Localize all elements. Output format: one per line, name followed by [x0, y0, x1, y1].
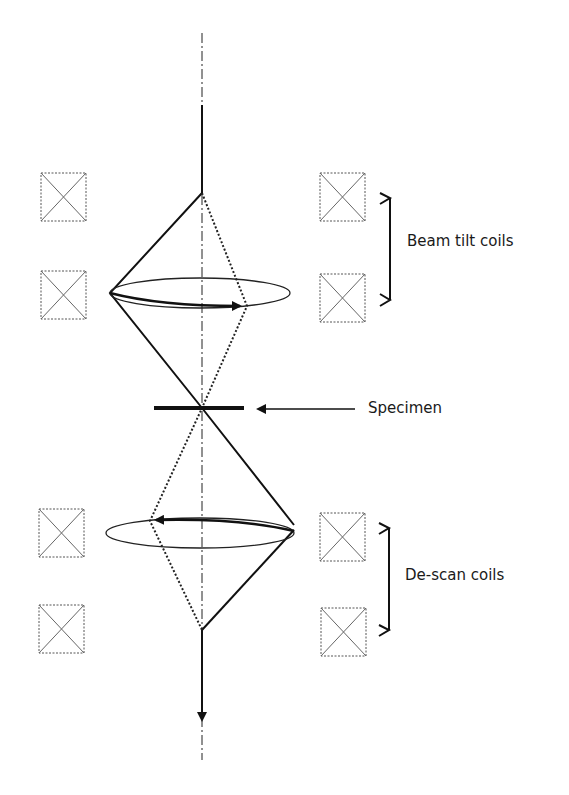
coil-right-4 — [321, 608, 366, 656]
beam-tilt-bracket — [380, 193, 390, 306]
specimen-label: Specimen — [368, 399, 442, 417]
lower-rotation-ellipse — [106, 518, 294, 548]
coil-left-1 — [41, 173, 86, 221]
descan-bracket — [379, 523, 389, 636]
descan-coils-label: De-scan coils — [405, 566, 504, 584]
coil-right-3 — [320, 513, 365, 561]
coil-left-2 — [41, 271, 86, 319]
lower-rotation-arrow — [156, 520, 294, 531]
tilted-beam-dotted — [150, 193, 247, 630]
upper-rotation-arrow — [110, 293, 240, 306]
descanned-beam-solid — [202, 530, 294, 630]
beam-tilt-coils-label: Beam tilt coils — [407, 232, 514, 250]
coil-right-1 — [320, 173, 365, 221]
upper-rotation-ellipse — [110, 278, 290, 308]
coil-left-4 — [39, 605, 84, 653]
diagram-canvas — [0, 0, 569, 795]
coil-left-3 — [39, 509, 84, 557]
coil-right-2 — [320, 274, 365, 322]
